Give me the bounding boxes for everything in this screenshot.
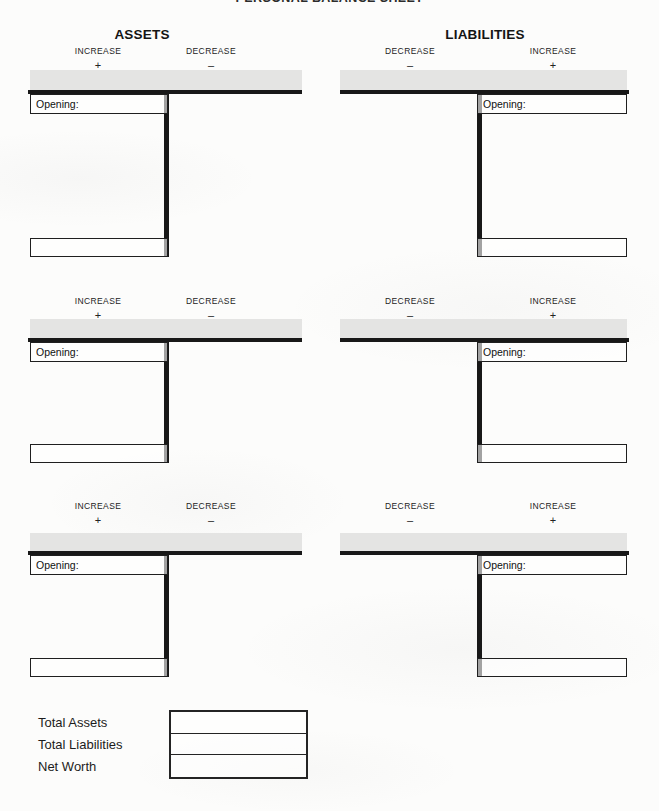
opening-balance-box[interactable]: Opening: bbox=[477, 555, 627, 575]
header-bar bbox=[30, 533, 302, 551]
t-account-top-rule bbox=[340, 551, 629, 555]
total-box[interactable] bbox=[30, 238, 168, 258]
decrease-text: DECREASE bbox=[340, 501, 480, 511]
increase-text: INCREASE bbox=[483, 501, 623, 511]
total-box[interactable] bbox=[477, 238, 627, 258]
header-bar bbox=[30, 319, 302, 338]
net-worth-value-box[interactable] bbox=[171, 755, 306, 777]
worksheet-page: PERSONAL BALANCE SHEET ASSETS LIABILITIE… bbox=[0, 0, 659, 811]
summary-table bbox=[169, 710, 308, 779]
asset-taccount-2: INCREASE + DECREASE – Opening: bbox=[30, 296, 302, 463]
decrease-text: DECREASE bbox=[340, 46, 480, 56]
total-liabilities-label: Total Liabilities bbox=[38, 737, 123, 753]
decrease-column-label: DECREASE – bbox=[340, 46, 480, 71]
decrease-text: DECREASE bbox=[141, 501, 281, 511]
opening-label: Opening: bbox=[36, 98, 79, 110]
decrease-text: DECREASE bbox=[141, 296, 281, 306]
asset-taccount-3: INCREASE + DECREASE – Opening: bbox=[30, 501, 302, 677]
opening-label: Opening: bbox=[483, 559, 526, 571]
decrease-text: DECREASE bbox=[340, 296, 480, 306]
total-box[interactable] bbox=[477, 444, 627, 464]
increase-column-label: INCREASE + bbox=[483, 501, 623, 526]
opening-label: Opening: bbox=[483, 346, 526, 358]
decrease-text: DECREASE bbox=[141, 46, 281, 56]
liability-taccount-2: DECREASE – INCREASE + Opening: bbox=[340, 296, 627, 463]
t-account-top-rule bbox=[340, 338, 629, 342]
opening-label: Opening: bbox=[483, 98, 526, 110]
decrease-column-label: DECREASE – bbox=[141, 501, 281, 526]
assets-heading: ASSETS bbox=[42, 27, 242, 42]
opening-balance-box[interactable]: Opening: bbox=[477, 342, 627, 362]
total-box[interactable] bbox=[30, 444, 168, 464]
total-box[interactable] bbox=[30, 658, 168, 678]
header-bar bbox=[340, 533, 627, 551]
decrease-column-label: DECREASE – bbox=[340, 296, 480, 321]
header-bar bbox=[340, 70, 627, 90]
total-box[interactable] bbox=[477, 658, 627, 678]
total-assets-value-box[interactable] bbox=[171, 712, 306, 734]
liability-taccount-1: DECREASE – INCREASE + Opening: bbox=[340, 46, 627, 257]
opening-balance-box[interactable]: Opening: bbox=[30, 94, 168, 114]
increase-column-label: INCREASE + bbox=[483, 296, 623, 321]
total-liabilities-value-box[interactable] bbox=[171, 734, 306, 756]
decrease-column-label: DECREASE – bbox=[141, 46, 281, 71]
decrease-column-label: DECREASE – bbox=[141, 296, 281, 321]
liability-taccount-3: DECREASE – INCREASE + Opening: bbox=[340, 501, 627, 677]
increase-text: INCREASE bbox=[483, 46, 623, 56]
minus-sign: – bbox=[340, 514, 480, 526]
decrease-column-label: DECREASE – bbox=[340, 501, 480, 526]
minus-sign: – bbox=[141, 514, 281, 526]
header-bar bbox=[30, 70, 302, 90]
t-account-top-rule bbox=[340, 90, 629, 94]
header-bar bbox=[340, 319, 627, 338]
opening-label: Opening: bbox=[36, 346, 79, 358]
t-account-stem bbox=[164, 90, 169, 257]
page-title: PERSONAL BALANCE SHEET bbox=[0, 0, 659, 5]
total-assets-label: Total Assets bbox=[38, 715, 107, 731]
asset-taccount-1: INCREASE + DECREASE – Opening: bbox=[30, 46, 302, 257]
t-account-stem bbox=[477, 90, 482, 257]
liabilities-heading: LIABILITIES bbox=[385, 27, 585, 42]
net-worth-label: Net Worth bbox=[38, 759, 96, 775]
increase-text: INCREASE bbox=[483, 296, 623, 306]
plus-sign: + bbox=[483, 514, 623, 526]
opening-balance-box[interactable]: Opening: bbox=[30, 555, 168, 575]
increase-column-label: INCREASE + bbox=[483, 46, 623, 71]
opening-balance-box[interactable]: Opening: bbox=[30, 342, 168, 362]
opening-balance-box[interactable]: Opening: bbox=[477, 94, 627, 114]
opening-label: Opening: bbox=[36, 559, 79, 571]
